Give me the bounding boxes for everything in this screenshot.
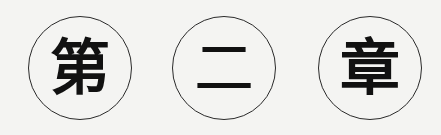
heading-char-1: 第	[50, 38, 110, 98]
circle-badge-1: 第	[28, 16, 132, 120]
heading-char-2: 二	[194, 38, 254, 98]
circle-badge-3: 章	[318, 16, 422, 120]
circle-badge-2: 二	[172, 16, 276, 120]
heading-char-3: 章	[340, 38, 400, 98]
